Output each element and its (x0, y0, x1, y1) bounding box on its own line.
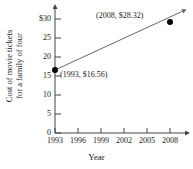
y-axis-title-line-2: for a family of four (14, 6, 24, 126)
x-tick-marks (55, 128, 170, 133)
data-point-1993 (52, 67, 58, 73)
chart-figure: $30 25 20 15 10 5 0 1993 1996 1999 2002 … (0, 0, 193, 169)
y-axis-title-line-1: Cost of movie tickets (4, 6, 14, 126)
x-axis-title: Year (0, 152, 193, 162)
x-tick-label-2008: 2008 (156, 136, 184, 145)
y-axis-title: Cost of movie tickets for a family of fo… (4, 6, 28, 126)
data-point-2008 (167, 19, 173, 25)
annotation-1993: (1993, $16.56) (60, 70, 107, 79)
annotation-2008: (2008, $28.32) (96, 11, 143, 20)
